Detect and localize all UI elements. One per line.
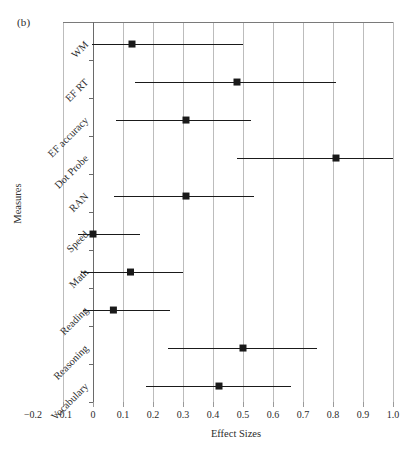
effect-size-marker [90, 231, 97, 238]
effect-size-marker [127, 269, 134, 276]
category-label-math: Math [67, 266, 91, 290]
effect-size-marker [110, 307, 117, 314]
x-tick-label: −0.2 [24, 409, 42, 420]
category-label-reading: Reading [58, 304, 91, 337]
category-label-ef-rt: EF RT [63, 76, 91, 104]
x-tick-label: 0.7 [297, 409, 310, 420]
ticks-layer [64, 61, 394, 408]
effect-size-marker [129, 41, 136, 48]
x-tick-label: 0.9 [357, 409, 370, 420]
x-tick-label: −0.1 [54, 409, 72, 420]
category-label-reasoning: Reasoning [51, 342, 91, 382]
forest-plot-canvas: WMEF RTEF accuracyDot ProbeRANSpeedMathR… [0, 0, 414, 450]
effect-size-marker [183, 117, 190, 124]
x-axis-title-text: Effect Sizes [153, 428, 261, 439]
xtick-labels-layer: −0.2−0.100.10.20.30.40.50.60.70.80.91.0 [24, 409, 399, 420]
x-axis-title: Effect Sizes [0, 428, 414, 439]
x-tick-label: 0.6 [267, 409, 280, 420]
x-tick-label: 0.8 [327, 409, 340, 420]
category-label-ran: RAN [67, 190, 91, 214]
effect-size-marker [234, 79, 241, 86]
category-labels-layer: WMEF RTEF accuracyDot ProbeRANSpeedMathR… [46, 38, 91, 422]
x-tick-label: 1.0 [387, 409, 400, 420]
x-tick-label: 0.5 [237, 409, 250, 420]
effect-size-marker [216, 383, 223, 390]
panel-label: (b) [17, 16, 30, 28]
y-axis-title: Measures [12, 164, 23, 244]
effect-size-marker [240, 345, 247, 352]
category-label-ef-accuracy: EF accuracy [46, 114, 91, 159]
markers-layer [90, 41, 340, 390]
axis-lines-layer [63, 22, 393, 403]
x-tick-label: 0.4 [207, 409, 220, 420]
forest-plot-figure: (b) WMEF RTEF accuracyDot ProbeRANSpeedM… [0, 0, 414, 450]
gridlines-layer [64, 22, 394, 402]
ci-lines-layer [78, 45, 393, 387]
x-tick-label: 0.2 [147, 409, 160, 420]
x-tick-label: 0 [91, 409, 96, 420]
category-label-dot-probe: Dot Probe [52, 152, 90, 190]
effect-size-marker [333, 155, 340, 162]
category-label-wm: WM [69, 38, 91, 60]
category-label-speed: Speed [64, 228, 90, 254]
effect-size-marker [183, 193, 190, 200]
x-tick-label: 0.3 [177, 409, 190, 420]
x-tick-label: 0.1 [117, 409, 130, 420]
